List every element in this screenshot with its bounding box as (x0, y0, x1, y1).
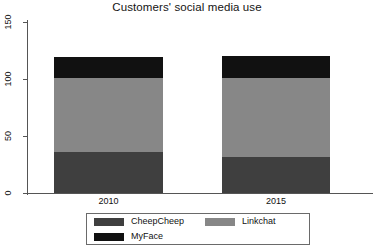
x-axis-line (27, 193, 373, 194)
bar-segment-cheepcheep-2010 (54, 152, 163, 193)
legend-label-cheepcheep: CheepCheep (131, 217, 184, 226)
y-tick-label-50: 50 (3, 124, 13, 148)
legend-empty-cell (198, 229, 309, 244)
y-tick-mark-50 (23, 136, 27, 137)
y-axis-line (27, 20, 28, 195)
legend-label-linkchat: Linkchat (242, 217, 276, 226)
y-tick-label-100: 100 (3, 67, 13, 91)
chart-title: Customers' social media use (0, 1, 374, 13)
y-tick-label-150: 150 (3, 10, 13, 34)
y-tick-mark-150 (23, 22, 27, 23)
y-tick-mark-0 (23, 193, 27, 194)
bar-segment-cheepcheep-2015 (222, 157, 330, 193)
bar-segment-myface-2010 (54, 57, 163, 78)
bar-segment-linkchat-2010 (54, 78, 163, 152)
legend-swatch-myface (94, 233, 124, 241)
bar-2015 (222, 56, 330, 193)
legend-label-myface: MyFace (131, 232, 163, 241)
bar-segment-myface-2015 (222, 56, 330, 78)
x-tick-label-2010: 2010 (54, 196, 163, 206)
bar-segment-linkchat-2015 (222, 78, 330, 157)
legend-item-myface[interactable]: MyFace (87, 229, 198, 244)
legend-item-linkchat[interactable]: Linkchat (198, 214, 309, 229)
legend-swatch-linkchat (205, 218, 235, 226)
chart-legend: CheepCheep Linkchat MyFace (86, 213, 310, 245)
legend-swatch-cheepcheep (94, 218, 124, 226)
y-tick-label-0: 0 (3, 181, 13, 205)
x-tick-label-2015: 2015 (222, 196, 330, 206)
legend-item-cheepcheep[interactable]: CheepCheep (87, 214, 198, 229)
bar-2010 (54, 57, 163, 193)
chart-figure: Customers' social media use 150 100 50 0… (0, 0, 374, 251)
y-tick-mark-100 (23, 79, 27, 80)
